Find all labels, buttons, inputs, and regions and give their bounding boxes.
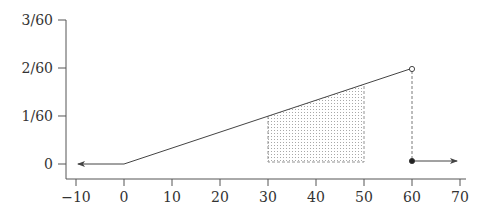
x-tick-label: 30 (259, 189, 277, 205)
density-line (124, 69, 410, 164)
shaded-region (268, 84, 364, 162)
filled-point (409, 158, 414, 163)
x-tick-label: 70 (451, 189, 469, 205)
x-tick-label: −10 (61, 189, 91, 205)
x-tick-label: 50 (355, 189, 373, 205)
y-tick-label: 0 (44, 156, 53, 172)
x-tick-label: 20 (211, 189, 229, 205)
axes (66, 20, 466, 179)
y-tick-label: 1/60 (22, 108, 53, 124)
x-tick-label: 10 (163, 189, 181, 205)
y-tick-label: 2/60 (22, 60, 53, 76)
x-tick-label: 40 (307, 189, 325, 205)
x-tick-label: 0 (120, 189, 129, 205)
y-ticks: 01/602/603/60 (22, 12, 66, 172)
chart-canvas: 01/602/603/60 −10010203040506070 (0, 0, 493, 215)
density-series (78, 66, 457, 164)
x-tick-label: 60 (403, 189, 421, 205)
shaded-area (268, 84, 364, 162)
open-point (409, 66, 414, 71)
x-ticks: −10010203040506070 (61, 179, 469, 205)
y-tick-label: 3/60 (22, 12, 53, 28)
